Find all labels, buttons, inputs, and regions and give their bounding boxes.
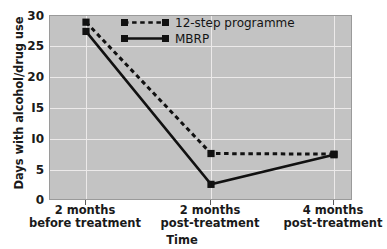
series-line-mbrp (86, 31, 334, 184)
data-point-marker (207, 150, 214, 157)
x-category-label-2-line-2: post-treatment (144, 217, 276, 230)
chart-legend: 12-step programme MBRP (121, 15, 303, 47)
legend-label-mbrp: MBRP (175, 33, 209, 45)
legend-swatch-solid-icon (121, 33, 169, 44)
y-tick-label-20: 20 (18, 71, 44, 83)
y-tick-label-5: 5 (18, 164, 44, 176)
legend-swatch-dashed-icon (121, 17, 169, 28)
data-point-marker (207, 181, 214, 188)
x-category-label-3-line-2: post-treatment (267, 217, 387, 230)
y-tick-label-30: 30 (18, 10, 44, 22)
data-point-marker (82, 28, 89, 35)
y-tick-label-15: I5 (18, 102, 44, 114)
data-point-marker (330, 151, 337, 158)
legend-item-12-step: 12-step programme (121, 15, 303, 30)
y-tick-label-25: 25 (18, 40, 44, 52)
legend-label-12-step: 12-step programme (175, 17, 295, 29)
y-tick-label-10: I0 (18, 133, 44, 145)
data-point-marker (82, 19, 89, 26)
legend-item-mbrp: MBRP (121, 31, 303, 46)
x-axis-title: Time (0, 233, 364, 247)
x-category-label-1: 2 months before treatment (19, 204, 151, 230)
x-category-label-2: 2 months post-treatment (144, 204, 276, 230)
x-category-label-1-line-2: before treatment (19, 217, 151, 230)
x-category-label-3: 4 months post-treatment (267, 204, 387, 230)
